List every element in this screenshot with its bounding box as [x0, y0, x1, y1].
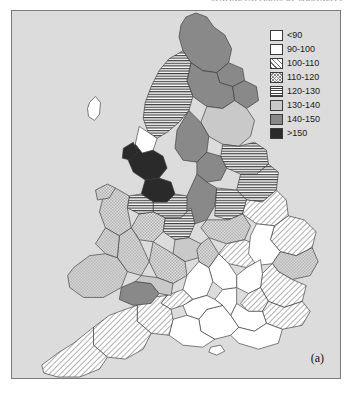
panel-letter: (a) — [311, 351, 324, 366]
legend-item: <90 — [270, 28, 336, 42]
legend-swatch-icon — [270, 86, 283, 97]
figure-frame: <90 90-100 100-110 110-120 120-130 130-1… — [11, 10, 341, 379]
legend-item-label: 90-100 — [287, 44, 315, 54]
legend-item: 90-100 — [270, 42, 336, 56]
legend-item-label: 120-130 — [287, 86, 320, 96]
legend-item: 110-120 — [270, 70, 336, 84]
legend-item: 120-130 — [270, 84, 336, 98]
legend-item-label: 140-150 — [287, 114, 320, 124]
legend-swatch-icon — [270, 72, 283, 83]
legend-item-label: 100-110 — [287, 58, 319, 68]
map-area — [221, 142, 269, 174]
legend-item-label: <90 — [287, 30, 302, 40]
legend-swatch-icon — [270, 114, 283, 125]
map-legend: <90 90-100 100-110 110-120 120-130 130-1… — [270, 28, 336, 140]
legend-item-label: 130-140 — [287, 100, 320, 110]
legend-item-label: 110-120 — [287, 72, 319, 82]
legend-swatch-icon — [270, 128, 283, 139]
map-area — [68, 254, 128, 298]
legend-swatch-icon — [270, 58, 283, 69]
legend-item-label: >150 — [287, 128, 307, 138]
legend-item: 100-110 — [270, 56, 336, 70]
map-area-isle-of-wight — [209, 345, 225, 355]
legend-item: 130-140 — [270, 98, 336, 112]
legend-item: >150 — [270, 126, 336, 140]
legend-swatch-icon — [270, 44, 283, 55]
legend-item: 140-150 — [270, 112, 336, 126]
running-header: SPATIAL PATTERNS OF MORTALITY — [0, 0, 352, 6]
legend-swatch-icon — [270, 100, 283, 111]
map-area-isle-of-man — [88, 97, 101, 121]
legend-swatch-icon — [270, 30, 283, 41]
running-header-text: SPATIAL PATTERNS OF MORTALITY — [211, 0, 344, 3]
